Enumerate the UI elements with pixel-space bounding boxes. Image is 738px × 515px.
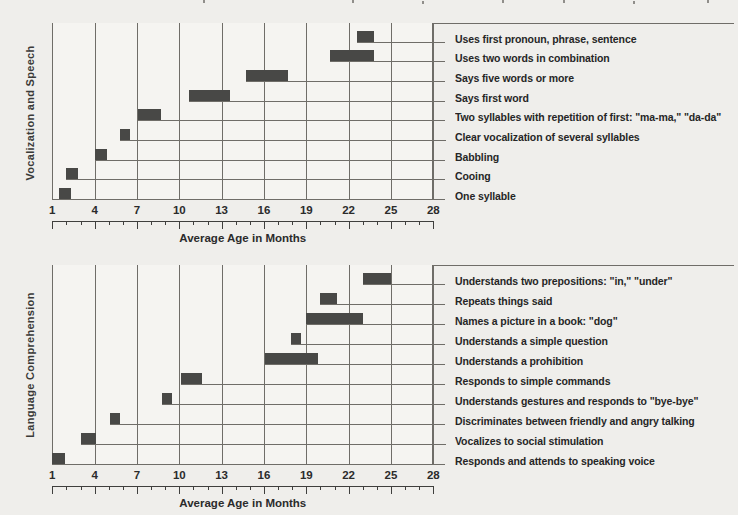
row-leader-line [363,284,446,285]
milestone-label: Repeats things said [455,293,735,309]
x-axis-tick [66,486,67,490]
milestone-bar [181,373,202,384]
x-tick-label: 13 [207,469,237,481]
milestone-label: Discriminates between friendly and angry… [455,413,735,429]
x-axis-tick [349,486,350,494]
milestone-bar [363,273,391,284]
milestone-label: Names a picture in a book: "dog" [455,313,735,329]
milestone-bar [320,293,337,304]
milestone-label: Understands a prohibition [455,353,735,369]
x-axis-tick [52,486,53,494]
row-leader-line [181,384,446,385]
x-axis-tick [419,486,420,490]
x-tick-label: 22 [334,469,364,481]
row-leader-line [320,304,445,305]
x-axis-tick [137,486,138,494]
milestone-label: Responds and attends to speaking voice [455,453,735,469]
row-leader-line [110,424,445,425]
milestone-label: Understands gestures and responds to "by… [455,393,735,409]
x-axis-tick [165,486,166,490]
x-axis-tick [433,486,434,494]
x-axis-tick [193,486,194,490]
x-axis-tick [250,486,251,490]
x-axis-tick [151,486,152,490]
figure-language-milestones: Vocalization and Speech Uses first prono… [0,0,738,515]
milestone-bar [291,333,301,344]
x-axis-tick [391,486,392,494]
panel-language-comprehension: Language Comprehension Understands two p… [0,0,738,515]
milestone-bar [110,413,120,424]
x-tick-label: 28 [418,469,448,481]
x-axis-tick [278,486,279,490]
x-axis-tick [377,486,378,490]
gridline [391,265,392,465]
x-axis-tick [179,486,180,494]
gridline [137,265,138,465]
x-axis-title: Average Age in Months [52,497,433,509]
gridline [179,265,180,465]
x-tick-label: 10 [164,469,194,481]
x-axis-tick [335,486,336,490]
gridline [306,265,307,465]
x-axis-tick [222,486,223,494]
category-band: Language Comprehension [15,267,44,463]
milestone-bar [265,353,317,364]
x-tick-label: 7 [122,469,152,481]
x-tick-label: 19 [291,469,321,481]
gridline [52,265,53,465]
row-leader-line [81,444,446,445]
gridline [264,265,265,465]
x-axis-tick [292,486,293,490]
x-axis-tick [320,486,321,490]
x-axis-tick [264,486,265,494]
row-leader-line [306,324,445,325]
milestone-bar [306,313,362,324]
x-axis-tick [306,486,307,494]
row-leader-line [291,344,446,345]
milestone-bar [52,453,65,464]
row-leader-line [52,464,445,465]
milestone-label: Vocalizes to social stimulation [455,433,735,449]
x-tick-label: 4 [80,469,110,481]
x-tick-label: 16 [249,469,279,481]
plot-area [52,265,433,465]
milestone-label: Responds to simple commands [455,373,735,389]
milestone-label: Understands two prepositions: "in," "und… [455,273,735,289]
row-leader-line [162,404,445,405]
milestone-label: Understands a simple question [455,333,735,349]
gridline [433,265,434,465]
milestone-bar [162,393,172,404]
x-tick-label: 1 [37,469,67,481]
gridline [349,265,350,465]
x-axis-tick [81,486,82,490]
x-axis-tick [236,486,237,490]
x-axis-tick [363,486,364,490]
x-axis-tick [109,486,110,490]
x-axis-tick [405,486,406,490]
milestone-bar [81,433,97,444]
x-tick-label: 25 [376,469,406,481]
row-leader-line [265,364,445,365]
x-axis-tick [123,486,124,490]
gridline [222,265,223,465]
x-axis-tick [208,486,209,490]
x-axis-tick [95,486,96,494]
category-band-label: Language Comprehension [24,292,36,437]
